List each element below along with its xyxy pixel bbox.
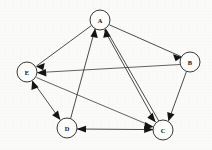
edge-d-c-arrowhead-at-d [77,126,86,133]
edge-b-to-e [37,65,180,77]
node-b[interactable]: B [180,52,200,72]
edge-a-to-b [109,25,182,62]
edge-b-to-c-arrowhead [167,112,174,121]
edge-a-to-c-line [104,30,155,122]
edge-layer [31,25,186,133]
graph-canvas: A B C D E [0,0,212,150]
directed-graph-figure: A B C D E [0,0,212,150]
edge-b-to-e-arrowhead [37,69,47,77]
edge-a-to-e-arrowhead [36,63,45,70]
edge-b-to-c [167,71,186,121]
edge-b-to-c-line [169,71,187,120]
edge-d-c-line [77,129,153,130]
edge-b-to-e-line [37,65,180,73]
node-a[interactable]: A [90,10,110,30]
node-d-label: D [65,125,70,132]
node-c[interactable]: C [153,120,173,140]
edge-e-d-arrowhead-at-d [52,111,60,120]
edge-a-to-e-line [37,26,92,67]
node-a-label: A [98,17,103,24]
edge-e-to-c-line [37,78,153,127]
edge-d-c-bidirectional [77,126,154,133]
node-d[interactable]: D [57,118,77,138]
node-c-label: C [161,127,166,134]
node-e-label: E [25,69,29,76]
edge-a-to-c [104,30,155,123]
edge-e-d-bidirectional [31,81,60,120]
edge-a-to-c-arrowhead [147,113,155,123]
node-e[interactable]: E [17,62,37,82]
edge-e-to-c [37,78,154,130]
edge-a-to-e [36,26,92,71]
edge-d-to-a [71,28,98,118]
node-b-label: B [188,59,193,66]
edge-a-to-b-line [109,25,181,57]
edge-d-to-a-line [71,29,95,119]
